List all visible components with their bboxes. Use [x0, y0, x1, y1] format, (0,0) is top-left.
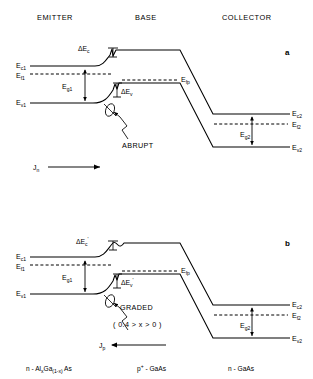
label-ev1-a: Ev1 [16, 99, 26, 108]
material-collector: n - GaAs [228, 365, 255, 372]
graded-notch-marker-b [104, 293, 117, 308]
label-ef1-a: Ef1 [16, 72, 25, 81]
label-ef2-a: Ef2 [292, 121, 301, 130]
label-eg1-a: Eg1 [62, 83, 72, 92]
label-eg2-a: Eg2 [240, 131, 250, 140]
abrupt-notch-marker-a [104, 102, 117, 117]
delta-ev-label-a: ΔEv [121, 88, 133, 97]
label-efp-b: Efp [181, 267, 190, 276]
label-ef1-b: Ef1 [16, 263, 25, 272]
label-ec2-b: Ec2 [292, 301, 302, 310]
delta-ev-label-b: ΔEv' [121, 277, 134, 288]
current-label-b: Jp [99, 342, 106, 351]
panel-b: b ΔEc' ΔEv' [16, 236, 302, 350]
panel-a-letter: a [285, 48, 290, 57]
label-ec1-b: Ec1 [16, 253, 26, 262]
label-eg2-b: Eg2 [240, 322, 250, 331]
delta-ec-bracket-b [108, 241, 118, 250]
band-diagram-svg: EMITTER BASE COLLECTOR a ΔEc [0, 0, 313, 379]
current-label-a: Jn [33, 164, 40, 173]
conduction-band-curve-a [30, 49, 290, 114]
panel-a: a ΔEc ΔEv [16, 45, 302, 173]
material-emitter: n - AlxGa(1-x) As [26, 365, 72, 374]
label-ec2-a: Ec2 [292, 110, 302, 119]
column-headers: EMITTER BASE COLLECTOR [37, 13, 272, 22]
abrupt-label: ABRUPT [122, 141, 154, 150]
composition-range-label: ( 0.4 > x > 0 ) [113, 320, 162, 329]
material-labels: n - AlxGa(1-x) As p+ - GaAs n - GaAs [26, 363, 255, 373]
delta-ec-label-b: ΔEc' [76, 236, 89, 247]
graded-label: GRADED [120, 303, 153, 312]
label-ef2-b: Ef2 [292, 312, 301, 321]
figure-canvas: EMITTER BASE COLLECTOR a ΔEc [0, 0, 313, 379]
label-ev2-b: Ev2 [292, 335, 302, 344]
abrupt-leader-a [114, 112, 128, 139]
valence-band-curve-a [30, 83, 290, 147]
header-base: BASE [135, 13, 157, 22]
label-eg1-b: Eg1 [62, 274, 72, 283]
header-emitter: EMITTER [37, 13, 73, 22]
delta-ec-label-a: ΔEc [78, 45, 90, 54]
label-efp-a: Efp [181, 76, 190, 85]
label-ec1-a: Ec1 [16, 62, 26, 71]
header-collector: COLLECTOR [222, 13, 272, 22]
label-ev1-b: Ev1 [16, 290, 26, 299]
material-base: p+ - GaAs [137, 363, 167, 373]
panel-b-letter: b [285, 239, 290, 248]
label-ev2-a: Ev2 [292, 144, 302, 153]
